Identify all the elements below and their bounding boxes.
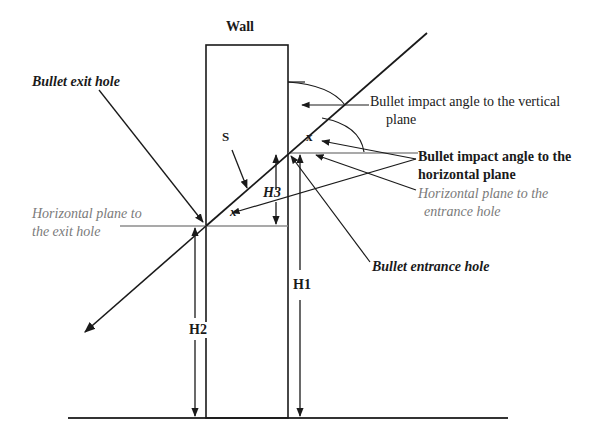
bullet-trajectory-line	[206, 33, 427, 226]
exit-hole-label: Bullet exit hole	[32, 74, 120, 90]
exit-plane-label-line1: Horizontal plane to	[32, 206, 142, 222]
vertical-angle-label-line1: Bullet impact angle to the vertical	[370, 94, 560, 110]
s-leader	[232, 150, 247, 188]
s-label: S	[222, 130, 229, 145]
horizontal-angle-leader-top	[322, 141, 416, 159]
x-angle-top-label: x	[306, 130, 313, 145]
vertical-angle-label-line2: plane	[386, 112, 416, 128]
exit-plane-label-line2: the exit hole	[32, 224, 100, 240]
entrance-hole-label: Bullet entrance hole	[372, 259, 489, 275]
horizontal-angle-label-line1: Bullet impact angle to the	[418, 149, 571, 165]
wall-label: Wall	[226, 19, 254, 35]
entrance-hole-leader	[291, 156, 370, 262]
entrance-plane-leader	[316, 155, 416, 190]
horizontal-angle-label-line2: horizontal plane	[418, 167, 516, 183]
h3-label: H3	[263, 185, 281, 201]
exit-hole-leader	[99, 90, 203, 222]
horizontal-angle-arc	[322, 118, 364, 152]
x-angle-bottom-label: x	[230, 205, 237, 220]
entrance-plane-label-line2: entrance hole	[424, 204, 501, 220]
wall-rectangle	[206, 45, 288, 418]
h2-label: H2	[188, 322, 208, 338]
vertical-angle-arc	[288, 82, 345, 105]
entrance-plane-label-line1: Horizontal plane to the	[418, 186, 548, 202]
bullet-exit-trajectory-arrow	[85, 226, 206, 332]
horizontal-angle-leader-bottom	[232, 159, 416, 213]
h1-label: H1	[292, 277, 312, 293]
